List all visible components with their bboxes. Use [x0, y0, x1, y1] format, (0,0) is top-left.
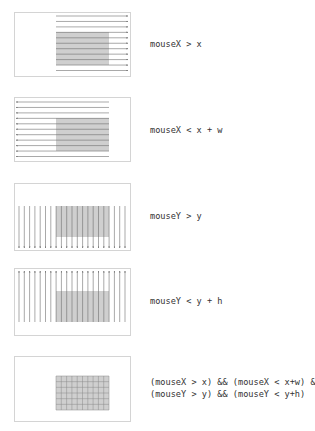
label-mousex-lt-x-plus-w: mouseX < x + w	[150, 124, 222, 136]
label-mousey-lt-y-plus-h: mouseY < y + h	[150, 295, 222, 307]
panel-combined	[15, 357, 131, 422]
label-combined-line2: (mouseY > y) && (mouseY < y+h)	[150, 388, 305, 400]
panel-mousey-gt-y	[15, 184, 131, 251]
label-combined-line1: (mouseX > x) && (mouseX < x+w) &&	[150, 376, 315, 388]
label-mousey-gt-y: mouseY > y	[150, 210, 202, 222]
label-mousex-gt-x: mouseX > x	[150, 38, 202, 50]
panel-mousey-lt-y-plus-h	[15, 269, 131, 336]
panel-mousex-gt-x	[15, 13, 131, 77]
panel-mousex-lt-x-plus-w	[15, 98, 131, 162]
